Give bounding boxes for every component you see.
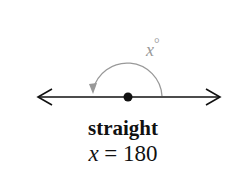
straight-angle-figure: x° xyxy=(0,0,246,110)
arc-arrowhead-icon xyxy=(89,83,97,94)
equation-value: = 180 xyxy=(99,141,158,166)
equation-variable: x xyxy=(88,141,98,166)
vertex-point xyxy=(124,93,133,102)
angle-equation: x = 180 xyxy=(0,141,246,167)
angle-type-title: straight xyxy=(0,116,246,141)
angle-arc xyxy=(93,63,162,96)
angle-label: x° xyxy=(145,36,160,60)
